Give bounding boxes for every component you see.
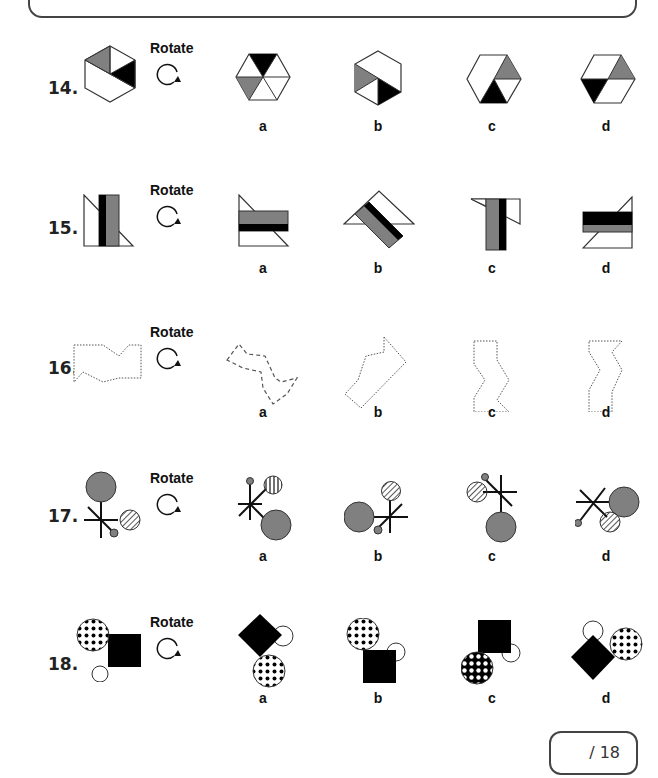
option-label-d[interactable]: d: [596, 690, 616, 706]
rotate-label: Rotate: [150, 614, 194, 630]
question-number: 14.: [48, 78, 78, 98]
rotate-clockwise-icon: [154, 202, 184, 232]
option-c-figure[interactable]: [473, 340, 513, 412]
option-label-b[interactable]: b: [368, 118, 388, 134]
rotate-label: Rotate: [150, 324, 194, 340]
question-16: 16. Rotate a b c d: [0, 310, 658, 430]
option-d-figure[interactable]: [569, 620, 645, 682]
option-label-d[interactable]: d: [596, 548, 616, 564]
question-figure: [73, 344, 143, 384]
option-label-c[interactable]: c: [482, 548, 502, 564]
option-label-c[interactable]: c: [482, 404, 502, 420]
option-label-c[interactable]: c: [482, 690, 502, 706]
option-label-a[interactable]: a: [253, 548, 273, 564]
option-label-d[interactable]: d: [596, 118, 616, 134]
question-figure: [82, 470, 144, 540]
option-b-figure[interactable]: [346, 618, 408, 688]
option-label-b[interactable]: b: [368, 260, 388, 276]
question-number: 15.: [48, 218, 78, 238]
option-b-figure[interactable]: [353, 50, 403, 106]
question-number: 17.: [48, 506, 78, 526]
option-c-figure[interactable]: [470, 198, 522, 252]
option-a-figure[interactable]: [236, 474, 292, 542]
question-15: 15. Rotate a b c d: [0, 170, 658, 290]
option-c-figure[interactable]: [465, 472, 523, 544]
option-a-figure[interactable]: [236, 612, 296, 688]
option-label-a[interactable]: a: [253, 404, 273, 420]
question-17: 17. Rotate a b: [0, 450, 658, 570]
header-box: [28, 0, 637, 18]
option-label-a[interactable]: a: [253, 118, 273, 134]
question-18: 18. Rotate a b c d: [0, 590, 658, 710]
option-label-a[interactable]: a: [253, 690, 273, 706]
option-label-b[interactable]: b: [368, 548, 388, 564]
option-label-d[interactable]: d: [596, 260, 616, 276]
score-total: / 18: [589, 743, 620, 762]
option-label-a[interactable]: a: [253, 260, 273, 276]
option-b-figure[interactable]: [344, 336, 410, 412]
question-figure: [83, 194, 135, 248]
option-b-figure[interactable]: [344, 480, 412, 536]
question-figure: [76, 618, 142, 682]
rotate-clockwise-icon: [154, 490, 184, 520]
rotate-clockwise-icon: [154, 344, 184, 374]
rotate-label: Rotate: [150, 182, 194, 198]
option-label-c[interactable]: c: [482, 118, 502, 134]
question-14: 14. Rotate a b c: [0, 30, 658, 150]
option-a-figure[interactable]: [238, 194, 290, 248]
rotate-clockwise-icon: [154, 634, 184, 664]
option-a-figure[interactable]: [225, 342, 301, 406]
option-d-figure[interactable]: [575, 484, 641, 540]
option-label-d[interactable]: d: [596, 404, 616, 420]
option-d-figure[interactable]: [582, 196, 634, 250]
question-figure: [83, 44, 137, 104]
option-c-figure[interactable]: [461, 618, 523, 688]
option-d-figure[interactable]: [580, 54, 636, 104]
score-box: / 18: [549, 731, 638, 775]
option-d-figure[interactable]: [588, 340, 624, 412]
question-number: 18.: [48, 654, 78, 674]
option-label-b[interactable]: b: [368, 404, 388, 420]
option-b-figure[interactable]: [343, 190, 415, 254]
rotate-label: Rotate: [150, 40, 194, 56]
option-c-figure[interactable]: [466, 54, 522, 104]
rotate-clockwise-icon: [154, 60, 184, 90]
rotate-label: Rotate: [150, 470, 194, 486]
option-label-c[interactable]: c: [482, 260, 502, 276]
option-a-figure[interactable]: [235, 52, 291, 102]
option-label-b[interactable]: b: [368, 690, 388, 706]
